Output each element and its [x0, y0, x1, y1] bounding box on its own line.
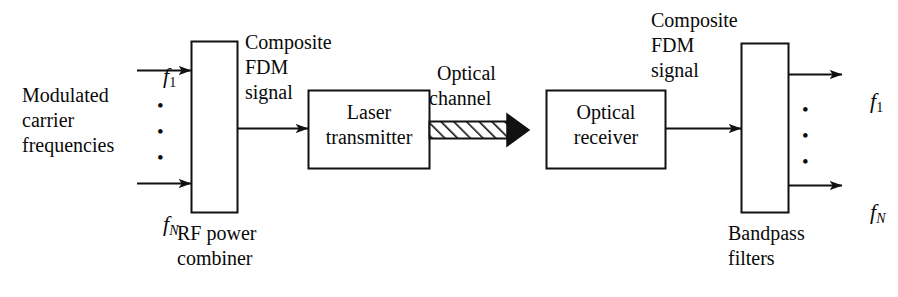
bandpass-filters-box [742, 44, 789, 213]
input-label-fn: fN [141, 185, 178, 263]
optical-receiver-label-line1: Optical [546, 101, 666, 124]
input-vertical-dot-2: • [157, 121, 164, 143]
optical-channel-arrowhead [507, 114, 529, 146]
rf-combiner-caption-line2: combiner [177, 247, 253, 270]
laser-transmitter-label-line1: Laser [308, 101, 430, 124]
laser-transmitter-label-line2: transmitter [308, 126, 430, 149]
optical-receiver-label-line2: receiver [546, 126, 666, 149]
input-vertical-dot-3: • [157, 147, 164, 169]
composite-left-line3: signal [245, 81, 293, 104]
optical-channel-label-line1: Optical [437, 62, 496, 85]
composite-left-line1: Composite [245, 31, 332, 54]
bandpass-filters-caption-line2: filters [728, 247, 775, 270]
composite-right-line1: Composite [651, 9, 738, 32]
bandpass-filters-caption-line1: Bandpass [728, 222, 805, 245]
input-vertical-dot-1: • [157, 95, 164, 117]
output-label-f1: f1 [848, 62, 883, 140]
composite-right-line3: signal [651, 59, 699, 82]
rf-power-combiner-box [192, 42, 238, 213]
rf-combiner-caption-line1: RF power [177, 222, 256, 245]
composite-left-line2: FDM [245, 56, 288, 79]
inputs-caption-line3: frequencies [22, 134, 114, 157]
output-label-fn: fN [848, 173, 885, 251]
optical-channel-hatched-bar [430, 122, 509, 139]
output-vertical-dot-3: • [802, 151, 809, 173]
composite-right-line2: FDM [651, 34, 694, 57]
optical-channel-label-line2: channel [429, 87, 491, 110]
figure-block-diagram: f1 fN Modulated carrier frequencies • • … [0, 0, 898, 297]
output-vertical-dot-2: • [802, 125, 809, 147]
output-vertical-dot-1: • [802, 99, 809, 121]
inputs-caption-line1: Modulated [22, 84, 109, 107]
inputs-caption-line2: carrier [22, 109, 74, 132]
